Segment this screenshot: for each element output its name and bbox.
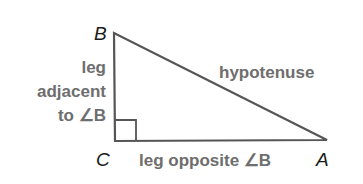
adjacent-leg-label-line2: adjacent	[37, 82, 106, 101]
opposite-leg-label: leg opposite ∠B	[139, 151, 271, 170]
vertex-label-c: C	[96, 149, 110, 170]
hypotenuse-label: hypotenuse	[219, 63, 314, 82]
adjacent-leg-label-line1: leg	[81, 58, 106, 77]
right-angle-marker	[115, 120, 136, 141]
vertex-label-b: B	[94, 23, 107, 44]
vertex-label-a: A	[315, 149, 329, 170]
triangle	[114, 33, 327, 141]
adjacent-leg-label-line3: to ∠B	[58, 106, 106, 125]
right-triangle-diagram: B C A hypotenuse leg adjacent to ∠B leg …	[0, 0, 363, 184]
